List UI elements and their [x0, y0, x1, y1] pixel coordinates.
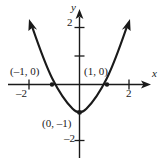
x-axis-label: x — [152, 68, 157, 79]
y-tick-label-2: 2 — [67, 17, 73, 28]
annotation-left-root: (–1, 0) — [10, 66, 39, 77]
y-axis — [75, 9, 85, 158]
x-tick-label-2: 2 — [126, 88, 132, 99]
x-tick-label-minus-2: –2 — [16, 88, 27, 99]
y-tick-label-minus-2: –2 — [64, 133, 75, 144]
point-marker-vertex — [77, 110, 82, 115]
graph-canvas — [0, 0, 166, 165]
y-axis-label: y — [71, 2, 76, 13]
point-marker-right-root — [105, 82, 109, 86]
parabola-figure: y x 2 –2 2 –2 (–1, 0) (1, 0) (0, –1) — [0, 0, 166, 165]
annotation-right-root: (1, 0) — [84, 66, 108, 77]
point-marker-left-root — [50, 82, 54, 86]
annotation-vertex: (0, –1) — [42, 118, 71, 129]
